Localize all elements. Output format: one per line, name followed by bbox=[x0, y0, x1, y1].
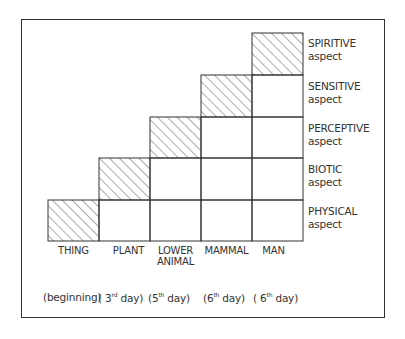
hatched-cell-mammal-sensitive bbox=[201, 75, 252, 117]
row-label-biotic: BIOTIC aspect bbox=[308, 163, 342, 189]
row-label-sensitive: SENSITIVE aspect bbox=[308, 80, 360, 106]
day-label-mammal: (6th day) bbox=[203, 291, 245, 304]
hatched-cell-man-spiritive bbox=[252, 33, 303, 75]
row-label-perceptive: PERCEPTIVE aspect bbox=[308, 122, 369, 148]
day-label-man: ( 6th day) bbox=[253, 291, 298, 304]
day-label-lower-animal: (5th day) bbox=[148, 291, 190, 304]
column-label-lower-animal: LOWER ANIMAL bbox=[150, 245, 201, 267]
column-label-thing: THING bbox=[48, 245, 99, 256]
row-label-physical: PHYSICAL aspect bbox=[308, 205, 357, 231]
hatched-cell-plant-biotic bbox=[99, 158, 150, 200]
hatched-cell-thing-physical bbox=[48, 200, 99, 241]
hatched-cell-lower-animal-perceptive bbox=[150, 117, 201, 158]
day-label-plant: ( 3rd day) bbox=[98, 291, 143, 304]
row-label-spiritive: SPIRITIVE aspect bbox=[308, 37, 356, 63]
column-label-mammal: MAMMAL bbox=[201, 245, 252, 256]
column-label-plant: PLANT bbox=[103, 245, 154, 256]
day-label-thing: (beginning) bbox=[43, 291, 101, 303]
column-label-man: MAN bbox=[248, 245, 299, 256]
